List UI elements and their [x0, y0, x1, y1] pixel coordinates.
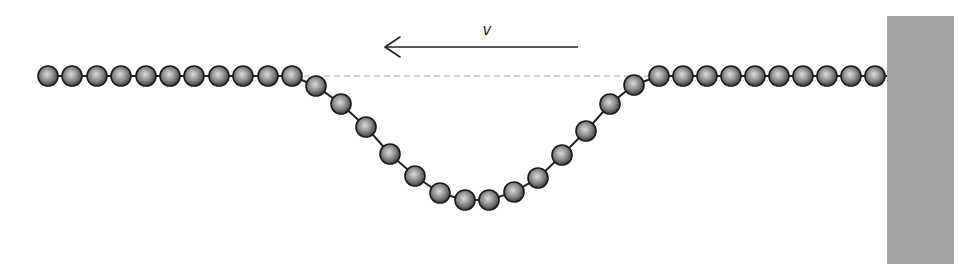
bead: [697, 66, 717, 86]
bead: [356, 117, 376, 137]
bead: [184, 66, 204, 86]
bead: [841, 66, 861, 86]
bead: [62, 66, 82, 86]
bead: [817, 66, 837, 86]
pulse-diagram: v: [0, 0, 975, 269]
bead: [552, 145, 572, 165]
bead: [769, 66, 789, 86]
bead: [111, 66, 131, 86]
bead: [649, 66, 669, 86]
velocity-arrow: v: [385, 21, 578, 57]
bead: [745, 66, 765, 86]
bead: [136, 66, 156, 86]
bead: [576, 121, 596, 141]
chain-string: [48, 76, 887, 200]
bead: [380, 144, 400, 164]
bead: [405, 166, 425, 186]
bead: [306, 76, 326, 96]
bead: [455, 190, 475, 210]
bead: [479, 190, 499, 210]
fixed-wall: [887, 16, 954, 264]
bead: [209, 66, 229, 86]
bead: [331, 94, 351, 114]
bead: [504, 182, 524, 202]
bead-chain: [38, 66, 885, 210]
bead: [721, 66, 741, 86]
bead: [430, 183, 450, 203]
bead: [258, 66, 278, 86]
bead: [600, 94, 620, 114]
bead: [528, 168, 548, 188]
bead: [87, 66, 107, 86]
velocity-label: v: [483, 21, 493, 39]
bead: [793, 66, 813, 86]
bead: [233, 66, 253, 86]
bead: [673, 66, 693, 86]
bead: [160, 66, 180, 86]
bead: [38, 66, 58, 86]
bead: [865, 66, 885, 86]
bead: [282, 66, 302, 86]
bead: [624, 75, 644, 95]
